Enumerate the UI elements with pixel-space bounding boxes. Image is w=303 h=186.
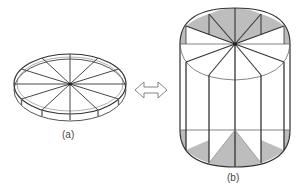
diagram-canvas: (a): [0, 0, 303, 186]
panel-b-label: (b): [227, 172, 239, 183]
double-arrow-icon: [135, 82, 167, 98]
panel-a-label: (a): [62, 129, 74, 140]
panel-a-disk: [14, 54, 126, 121]
panel-b-cylinder: [180, 8, 290, 167]
